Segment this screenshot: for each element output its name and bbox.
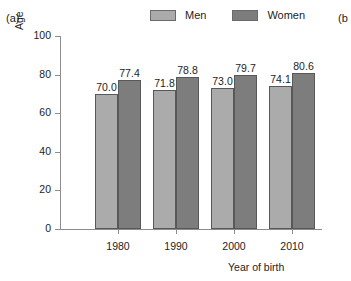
bar-men-2000: 73.0 — [211, 88, 234, 229]
bar-value-label: 80.6 — [293, 60, 313, 72]
panel-label-b-partial: (b — [338, 12, 348, 24]
y-tick-label: 100 — [33, 29, 51, 41]
bar-women-1980: 77.4 — [118, 80, 141, 229]
x-tick-label: 1990 — [164, 240, 187, 252]
x-tick: 1990 — [176, 230, 177, 234]
bar-value-label: 70.0 — [96, 81, 116, 93]
x-tick: 2010 — [292, 230, 293, 234]
figure-panel-a: (a) (b Men Women Age Year of birth 02040… — [0, 0, 351, 281]
legend-swatch-women — [232, 10, 258, 21]
bar-value-label: 78.8 — [177, 64, 197, 76]
y-axis-line — [60, 36, 61, 230]
bar-women-2010: 80.6 — [292, 73, 315, 229]
x-axis-line — [60, 229, 322, 230]
legend-entry-men: Men — [150, 9, 206, 21]
bar-value-label: 77.4 — [119, 67, 139, 79]
x-tick-label: 2010 — [280, 240, 303, 252]
bar-value-label: 79.7 — [235, 62, 255, 74]
bar-value-label: 73.0 — [212, 75, 232, 87]
plot-area: 020406080100 1980199020002010 70.077.471… — [60, 37, 322, 230]
y-tick: 60 — [55, 113, 61, 114]
legend-swatch-men — [150, 10, 176, 21]
legend-label-women: Women — [267, 9, 305, 21]
bar-value-label: 71.8 — [154, 77, 174, 89]
y-tick-label: 60 — [39, 106, 51, 118]
y-tick-label: 40 — [39, 145, 51, 157]
y-tick-label: 80 — [39, 68, 51, 80]
bar-value-label: 74.1 — [270, 73, 290, 85]
y-axis-title: Age — [13, 11, 25, 30]
bar-women-1990: 78.8 — [176, 77, 199, 229]
bar-men-2010: 74.1 — [269, 86, 292, 229]
x-tick-label: 2000 — [222, 240, 245, 252]
y-tick: 80 — [55, 75, 61, 76]
bar-men-1980: 70.0 — [95, 94, 118, 229]
y-tick-label: 0 — [45, 222, 51, 234]
y-tick: 40 — [55, 152, 61, 153]
y-tick: 100 — [55, 36, 61, 37]
legend-label-men: Men — [185, 9, 206, 21]
y-tick: 0 — [55, 229, 61, 230]
legend-entry-women: Women — [232, 9, 305, 21]
bar-women-2000: 79.7 — [234, 75, 257, 229]
x-tick: 1980 — [118, 230, 119, 234]
x-axis-title: Year of birth — [228, 261, 284, 273]
chart-legend: Men Women — [150, 9, 305, 21]
y-tick-label: 20 — [39, 183, 51, 195]
x-tick-label: 1980 — [106, 240, 129, 252]
x-tick: 2000 — [234, 230, 235, 234]
y-tick: 20 — [55, 190, 61, 191]
bar-men-1990: 71.8 — [153, 90, 176, 229]
